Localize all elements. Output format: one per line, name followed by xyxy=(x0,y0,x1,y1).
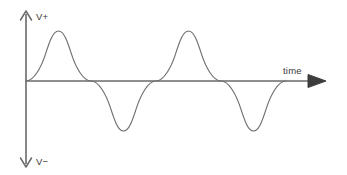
y-axis-positive-label: V+ xyxy=(36,11,49,22)
label-layer: V+ V− time xyxy=(0,0,347,175)
x-axis-label: time xyxy=(283,65,302,76)
y-axis-negative-label: V− xyxy=(36,156,49,167)
waveform-diagram: V+ V− time xyxy=(0,0,347,175)
